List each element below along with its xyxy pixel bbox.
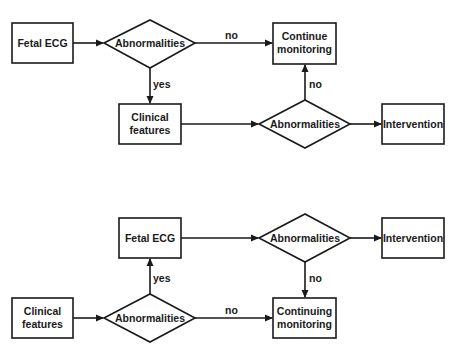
- edge-label-no: no: [309, 272, 322, 284]
- node-label-line2: monitoring: [277, 43, 332, 55]
- node-intervention-2: Intervention: [382, 218, 444, 258]
- edge-label-no: no: [225, 29, 238, 41]
- decision-label: Abnormalities: [270, 232, 340, 244]
- decision-label: Abnormalities: [115, 312, 185, 324]
- bottom-flowchart: Fetal ECG Abnormalities Intervention Cli…: [12, 214, 444, 342]
- top-flowchart: Fetal ECG Abnormalities Continue monitor…: [12, 20, 444, 148]
- decision-label: Abnormalities: [270, 118, 340, 130]
- node-label-line2: features: [130, 124, 171, 136]
- node-fetal-ecg-2: Fetal ECG: [119, 218, 181, 258]
- node-label-line1: Continue: [282, 30, 328, 42]
- node-label-line2: features: [22, 318, 63, 330]
- node-label-line1: Clinical: [131, 111, 168, 123]
- decision-abnormalities-2: Abnormalities: [259, 100, 350, 148]
- node-continue-monitoring: Continue monitoring: [273, 23, 336, 64]
- node-intervention: Intervention: [382, 104, 444, 144]
- node-label-line2: monitoring: [277, 318, 332, 330]
- node-clinical-features-2: Clinical features: [12, 298, 73, 338]
- edge-label-yes: yes: [153, 78, 171, 90]
- node-label: Intervention: [383, 118, 443, 130]
- node-label-line1: Clinical: [24, 305, 61, 317]
- node-label: Fetal ECG: [17, 37, 67, 49]
- node-label: Fetal ECG: [125, 232, 175, 244]
- node-clinical-features: Clinical features: [119, 104, 181, 144]
- edge-label-yes: yes: [153, 272, 171, 284]
- edge-label-no: no: [225, 304, 238, 316]
- node-continuing-monitoring: Continuing monitoring: [273, 298, 336, 338]
- edge-label-no: no: [309, 78, 322, 90]
- node-label: Intervention: [383, 232, 443, 244]
- decision-abnormalities: Abnormalities: [104, 20, 195, 68]
- node-label-line1: Continuing: [277, 305, 332, 317]
- node-fetal-ecg: Fetal ECG: [12, 23, 73, 63]
- decision-abnormalities-4: Abnormalities: [104, 294, 195, 342]
- flowchart-canvas: Fetal ECG Abnormalities Continue monitor…: [0, 0, 467, 358]
- decision-label: Abnormalities: [115, 37, 185, 49]
- decision-abnormalities-3: Abnormalities: [259, 214, 350, 262]
